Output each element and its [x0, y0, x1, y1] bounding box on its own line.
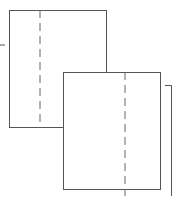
- front-sheet: [64, 73, 161, 190]
- sheets-diagram: [0, 0, 177, 196]
- right-bracket-line: [165, 86, 172, 197]
